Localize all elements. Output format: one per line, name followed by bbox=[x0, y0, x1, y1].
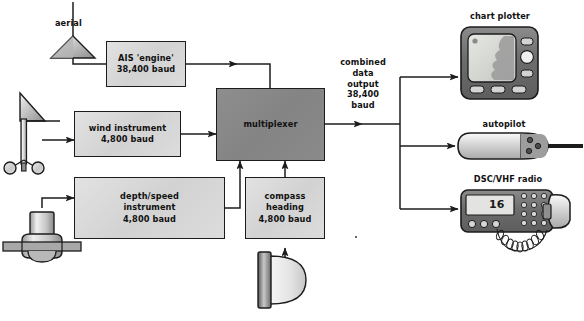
radio-label: DSC/VHF radio bbox=[456, 174, 560, 185]
chart-plotter-label: chart plotter bbox=[463, 11, 537, 22]
multiplexer-box: multiplexer bbox=[216, 88, 325, 161]
wire-depth-to-box bbox=[42, 198, 74, 208]
radio-channel-display: 16 bbox=[489, 198, 504, 211]
compass-sensor-icon bbox=[258, 252, 306, 308]
autopilot-label: autopilot bbox=[458, 119, 550, 130]
diagram-canvas: aerial combined data output 38,400 baud … bbox=[0, 0, 584, 321]
output-label-line4: 38,400 bbox=[347, 89, 379, 99]
aerial-label: aerial bbox=[55, 18, 82, 29]
depth-box-line3: 4,800 baud bbox=[123, 214, 176, 224]
wire-depth-route bbox=[225, 172, 240, 208]
output-label-line3: output bbox=[347, 79, 379, 89]
dsc-vhf-radio-icon bbox=[461, 190, 570, 252]
multiplexer-label: multiplexer bbox=[243, 119, 297, 130]
depth-transducer-icon bbox=[3, 212, 81, 262]
wind-box-line1: wind instrument bbox=[89, 123, 167, 133]
wind-instrument-box: wind instrument 4,800 baud bbox=[74, 111, 181, 157]
wire-ais-to-mux bbox=[237, 64, 270, 88]
chart-plotter-icon bbox=[461, 27, 538, 99]
compass-box-line1: compass bbox=[265, 191, 306, 201]
output-label-line1: combined bbox=[340, 57, 386, 67]
artifact-speck bbox=[355, 236, 357, 238]
aerial-icon bbox=[51, 36, 95, 58]
autopilot-icon bbox=[458, 133, 583, 159]
combined-output-label: combined data output 38,400 baud bbox=[332, 57, 394, 111]
output-label-line2: data bbox=[352, 68, 373, 78]
depth-box-line1: depth/speed bbox=[120, 191, 179, 201]
compass-box-line3: 4,800 baud bbox=[259, 214, 312, 224]
depth-speed-box: depth/speed instrument 4,800 baud bbox=[74, 177, 225, 239]
output-label-line5: baud bbox=[351, 100, 374, 110]
compass-box-line2: heading bbox=[266, 202, 304, 212]
ais-box-line1: AIS 'engine' bbox=[118, 53, 174, 63]
wind-vane-icon bbox=[4, 93, 60, 174]
wind-box-line2: 4,800 baud bbox=[101, 134, 154, 144]
depth-box-line2: instrument bbox=[123, 202, 175, 212]
ais-box-line2: 38,400 baud bbox=[117, 64, 176, 74]
ais-engine-box: AIS 'engine' 38,400 baud bbox=[106, 41, 186, 87]
compass-heading-box: compass heading 4,800 baud bbox=[245, 177, 325, 239]
